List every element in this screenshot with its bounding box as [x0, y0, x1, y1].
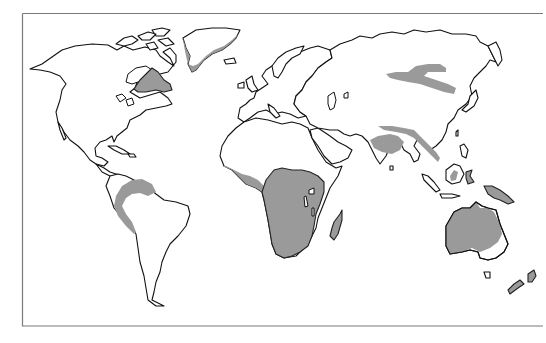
greenland	[183, 28, 240, 72]
sri-lanka	[390, 166, 393, 170]
taiwan	[456, 130, 458, 136]
hispaniola	[128, 154, 136, 157]
cuba	[108, 146, 130, 154]
java	[440, 194, 460, 198]
shaded-region-sulawesi	[466, 170, 474, 184]
shaded-region-new-zealand-south	[508, 280, 524, 294]
world-map	[0, 0, 546, 343]
lake-malawi	[312, 208, 314, 216]
sumatra	[422, 174, 440, 192]
world-map-svg	[0, 0, 546, 343]
shaded-region-central-southern-africa	[262, 168, 324, 258]
ireland	[238, 82, 244, 88]
shaded-region-new-zealand-north	[528, 270, 536, 282]
iceland	[224, 58, 236, 64]
shaded-region-new-guinea	[484, 186, 514, 204]
tasmania	[484, 272, 490, 278]
shaded-region-madagascar	[330, 210, 342, 240]
philippines	[460, 144, 468, 158]
north-america	[30, 44, 176, 166]
great-britain	[246, 76, 258, 92]
